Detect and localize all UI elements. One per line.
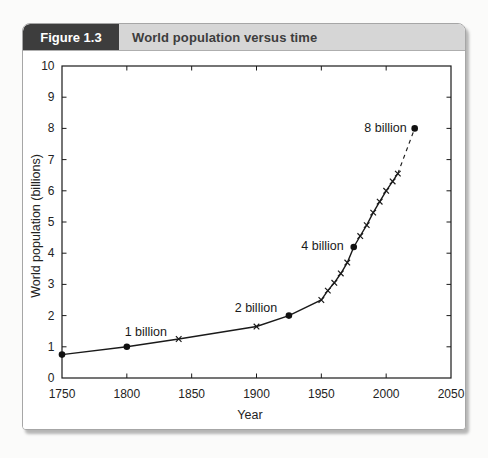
figure-header: Figure 1.3 World population versus time [23,24,465,51]
figure-title: World population versus time [119,24,465,50]
figure-panel: Figure 1.3 World population versus time [22,23,466,430]
figure-number-badge: Figure 1.3 [23,24,119,50]
figure-number: Figure 1.3 [40,30,101,45]
chart-canvas-area [23,51,465,429]
